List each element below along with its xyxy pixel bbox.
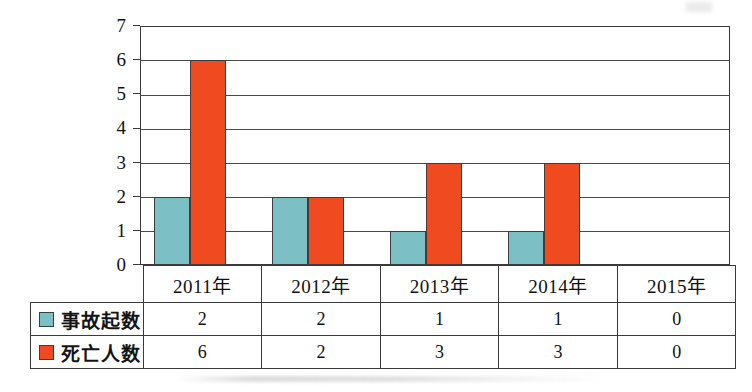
table-cell-死亡人数-2015年: 0 [617, 336, 736, 369]
table-cell-死亡人数-2012年: 2 [262, 336, 381, 369]
gridline-5 [141, 95, 729, 96]
data-table-wrapper: 2011年2012年2013年2014年2015年事故起数22110死亡人数62… [30, 265, 730, 365]
scan-artifact-bottom [175, 376, 605, 382]
plot-area [140, 26, 730, 265]
table-cell-事故起数-2013年: 1 [380, 303, 499, 336]
y-tick-label-6: 6 [96, 50, 126, 69]
table-row-years: 2011年2012年2013年2014年2015年 [31, 266, 736, 303]
legend-label: 死亡人数 [61, 339, 141, 366]
y-tick-mark-5 [133, 93, 140, 94]
category-label-2013年: 2013年 [380, 266, 499, 303]
table-cell-事故起数-2011年: 2 [143, 303, 262, 336]
table-cell-死亡人数-2011年: 6 [143, 336, 262, 369]
gridline-1 [141, 231, 729, 232]
y-tick-mark-6 [133, 59, 140, 60]
data-table: 2011年2012年2013年2014年2015年事故起数22110死亡人数62… [30, 265, 736, 369]
y-tick-label-4: 4 [96, 118, 126, 137]
y-tick-mark-7 [133, 25, 140, 26]
category-label-2011年: 2011年 [143, 266, 262, 303]
gridline-6 [141, 60, 729, 61]
table-cell-事故起数-2012年: 2 [262, 303, 381, 336]
chart-root: 01234567 2011年2012年2013年2014年2015年事故起数22… [0, 0, 752, 392]
category-label-2015年: 2015年 [617, 266, 736, 303]
y-tick-label-1: 1 [96, 221, 126, 240]
legend-entry-死亡人数[interactable]: 死亡人数 [31, 336, 144, 369]
legend-entry-事故起数[interactable]: 事故起数 [31, 303, 144, 336]
legend-swatch-icon [39, 312, 54, 327]
y-tick-label-2: 2 [96, 187, 126, 206]
gridline-3 [141, 163, 729, 164]
legend-label: 事故起数 [61, 306, 141, 333]
gridline-4 [141, 129, 729, 130]
legend-swatch-icon [39, 345, 54, 360]
y-tick-label-7: 7 [96, 16, 126, 35]
table-row: 死亡人数62330 [31, 336, 736, 369]
table-row: 事故起数22110 [31, 303, 736, 336]
table-cell-死亡人数-2013年: 3 [380, 336, 499, 369]
y-tick-mark-2 [133, 196, 140, 197]
category-label-2012年: 2012年 [262, 266, 381, 303]
table-corner-blank [31, 266, 144, 303]
y-tick-label-5: 5 [96, 84, 126, 103]
y-tick-mark-1 [133, 230, 140, 231]
y-tick-mark-3 [133, 162, 140, 163]
table-cell-死亡人数-2014年: 3 [499, 336, 618, 369]
gridline-2 [141, 197, 729, 198]
y-tick-mark-4 [133, 128, 140, 129]
table-cell-事故起数-2014年: 1 [499, 303, 618, 336]
y-tick-label-3: 3 [96, 153, 126, 172]
table-cell-事故起数-2015年: 0 [617, 303, 736, 336]
category-label-2014年: 2014年 [499, 266, 618, 303]
scan-artifact-corner [686, 2, 712, 12]
